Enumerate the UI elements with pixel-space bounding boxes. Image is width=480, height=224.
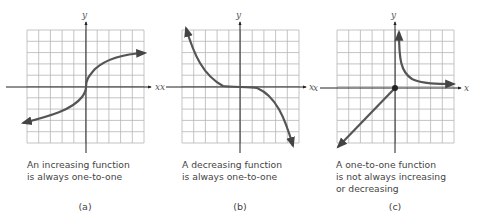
caption-b: A decreasing function is always one-to-o… (182, 159, 282, 183)
caption-c: A one-to-one function is not always incr… (336, 159, 446, 195)
x-axis-label-c: x (464, 83, 469, 93)
line-segment-c (338, 88, 395, 147)
x-axis-label-b-left: x (160, 82, 165, 92)
y-axis-label-c: y (390, 10, 397, 20)
panel-b: x y x (160, 10, 314, 153)
panel-c: x y x (313, 10, 469, 153)
panel-label-b: (b) (220, 201, 260, 212)
caption-a: An increasing function is always one-to-… (27, 159, 130, 183)
y-axis-label-a: y (81, 10, 88, 20)
panel-a: x y (6, 10, 160, 153)
y-axis-label-b: y (235, 10, 242, 20)
panel-label-a: (a) (65, 201, 105, 212)
panel-label-c: (c) (375, 201, 415, 212)
x-axis-label-c-left: x (313, 83, 318, 93)
closed-dot-c (392, 85, 398, 91)
